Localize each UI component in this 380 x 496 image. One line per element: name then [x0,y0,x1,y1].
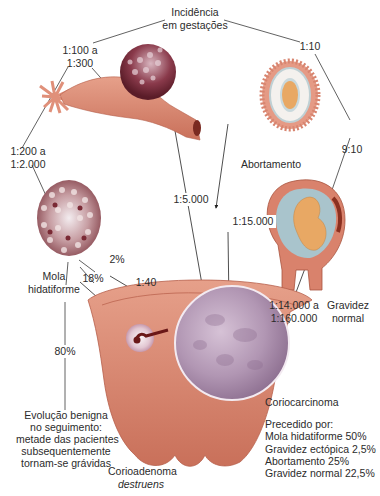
rate-mole-benign: 80% [52,345,78,358]
mole-line-1: Mola [28,270,80,283]
preceded-by-list: Precedido por: Mola hidatiforme 50% Grav… [265,418,376,479]
preceded-by-item: Gravidez ectópica 2,5% [265,443,376,455]
normal-pregnancy-illustration [267,180,345,290]
benign-line-5: tornam-se grávidas [16,457,116,469]
rate-mole-line-1: 1:200 a [8,145,48,158]
rate-normal-line-2: 1:160.000 [266,312,322,325]
title-line-2: em gestações [162,19,228,32]
rate-mole-to-chorio-pct: 2% [106,253,128,266]
preceded-by-heading: Precedido por: [265,418,376,430]
rate-normal-to-chorio: 1:14.000 a 1:160.000 [266,299,322,324]
hydatidiform-mole-illustration [37,180,101,256]
rate-mole-line-2: 1:2.000 [8,158,48,171]
title-line-1: Incidência [162,6,228,19]
rate-normal-line-1: 1:14.000 a [266,299,322,312]
rate-ectopic-line-2: 1:300 [60,57,100,70]
benign-line-1: Evolução benigna [16,409,116,421]
mole-line-2: hidatiforme [28,283,80,296]
invasive-mole-line-2: destruens [108,478,174,491]
preceded-by-item: Mola hidatiforme 50% [265,430,376,442]
rate-abortion-to-chorio: 1:15.000 [230,215,276,228]
normal-pregnancy-line-2: normal [326,312,370,325]
label-choriocarcinoma: Coriocarcinoma [265,396,339,409]
label-invasive-mole: Corioadenoma destruens [108,465,174,490]
benign-outcome-text: Evolução benigna no seguimento: metade d… [16,409,116,469]
rate-mole-left: 1:200 a 1:2.000 [8,145,48,170]
benign-line-2: no seguimento: [16,421,116,433]
label-normal-pregnancy: Gravidez normal [326,299,370,324]
normal-pregnancy-line-1: Gravidez [326,299,370,312]
rate-mole-to-invasive: 18% [80,272,106,285]
rate-ectopic-top: 1:100 a 1:300 [60,44,100,69]
title-incidence: Incidência em gestações [162,6,228,31]
rate-ectopic-to-chorio: 1:5.000 [170,193,212,206]
benign-line-4: subsequentemente [16,445,116,457]
label-abortion: Abortamento [240,158,302,171]
label-hydatidiform-mole: Mola hidatiforme [28,270,80,295]
invasive-mole-line-1: Corioadenoma [108,465,174,478]
preceded-by-item: Abortamento 25% [265,455,376,467]
benign-line-3: metade das pacientes [16,433,116,445]
rate-mole-to-chorio-ratio: 1:40 [134,276,158,289]
rate-abortion-top: 1:10 [296,40,324,53]
abortion-illustration [262,61,318,129]
rate-ectopic-line-1: 1:100 a [60,44,100,57]
preceded-by-item: Gravidez normal 22,5% [265,467,376,479]
rate-normal-right: 9:10 [338,143,366,156]
